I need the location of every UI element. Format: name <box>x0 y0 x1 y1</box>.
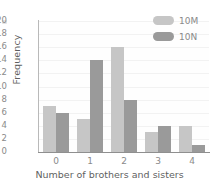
bar-10N-4[interactable] <box>192 145 205 152</box>
bar-10M-3[interactable] <box>145 132 158 152</box>
bar-10N-2[interactable] <box>124 100 137 152</box>
x-axis-line <box>38 152 210 153</box>
gridline <box>39 47 209 48</box>
x-tick-label: 3 <box>148 156 168 166</box>
legend-label: 10M <box>179 16 198 26</box>
bar-10M-1[interactable] <box>77 119 90 152</box>
legend: 10M 10N <box>153 14 215 46</box>
x-axis-title: Number of brothers and sisters <box>0 169 219 180</box>
legend-swatch-icon <box>153 16 174 25</box>
bar-10N-3[interactable] <box>158 126 171 152</box>
bar-chart-figure: Frequency 02468101214161820 01234 Number… <box>0 0 219 186</box>
x-tick-label: 2 <box>114 156 134 166</box>
bar-10N-1[interactable] <box>90 60 103 152</box>
legend-label: 10N <box>179 32 197 42</box>
y-axis-line <box>38 20 39 153</box>
bar-10N-0[interactable] <box>56 113 69 152</box>
gridline <box>39 60 209 61</box>
gridline <box>39 87 209 88</box>
legend-item[interactable]: 10M <box>153 14 215 27</box>
y-axis-title: Frequency <box>11 20 22 100</box>
gridline <box>39 73 209 74</box>
x-tick-label: 1 <box>80 156 100 166</box>
bar-10M-0[interactable] <box>43 106 56 152</box>
legend-swatch-icon <box>153 32 174 41</box>
bar-10M-4[interactable] <box>179 126 192 152</box>
x-tick-label: 4 <box>182 156 202 166</box>
legend-item[interactable]: 10N <box>153 30 215 43</box>
x-tick-label: 0 <box>46 156 66 166</box>
bar-10M-2[interactable] <box>111 47 124 152</box>
